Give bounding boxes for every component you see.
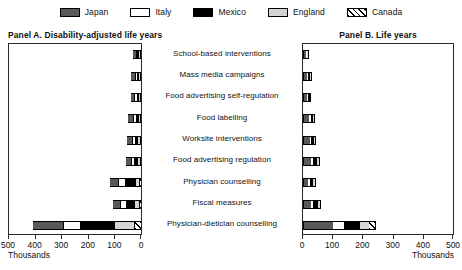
legend-label-canada: Canada bbox=[372, 8, 402, 17]
bar-row bbox=[33, 221, 141, 230]
bar-row bbox=[133, 50, 141, 59]
bar-segment-mexico bbox=[80, 221, 114, 230]
bar-segment-japan bbox=[303, 221, 333, 230]
chart-legend: JapanItalyMexicoEnglandCanada bbox=[0, 4, 462, 20]
bar-segment-canada bbox=[140, 50, 141, 59]
legend-swatch-canada-icon bbox=[347, 8, 367, 17]
bar-segment-japan bbox=[33, 221, 65, 230]
panel-b-bars bbox=[303, 44, 453, 234]
chart-figure: JapanItalyMexicoEnglandCanada Panel A. D… bbox=[0, 0, 462, 270]
category-label: Physician counselling bbox=[146, 177, 298, 186]
axis-tick bbox=[332, 235, 333, 239]
axis-tick bbox=[140, 235, 141, 239]
category-label: Food advertising self-regulation bbox=[146, 91, 298, 100]
bar-segment-japan bbox=[303, 157, 311, 166]
bar-segment-canada bbox=[308, 50, 309, 59]
bar-row bbox=[113, 200, 141, 209]
axis-tick-label: 500 bbox=[1, 240, 15, 250]
category-label: Food advertising regulation bbox=[146, 155, 298, 164]
axis-tick bbox=[302, 235, 303, 239]
bar-row bbox=[131, 72, 141, 81]
axis-tick-label: 500 bbox=[446, 240, 460, 250]
panel-b-title: Panel B. Life years bbox=[300, 30, 456, 40]
panel-b-plot-area bbox=[302, 43, 454, 235]
bar-segment-canada bbox=[139, 178, 141, 187]
bar-segment-england bbox=[115, 221, 135, 230]
category-label: School-based interventions bbox=[146, 49, 298, 58]
legend-item-england[interactable]: England bbox=[268, 8, 325, 17]
bar-row bbox=[303, 93, 311, 102]
bar-segment-japan bbox=[126, 157, 133, 166]
bar-row bbox=[303, 50, 309, 59]
bar-segment-canada bbox=[134, 221, 141, 230]
bar-row bbox=[303, 72, 312, 81]
bar-row bbox=[303, 200, 321, 209]
axis-tick-label: 300 bbox=[386, 240, 400, 250]
legend-item-canada[interactable]: Canada bbox=[347, 8, 402, 17]
bar-segment-canada bbox=[369, 221, 376, 230]
axis-tick-label: 400 bbox=[28, 240, 42, 250]
legend-swatch-japan-icon bbox=[60, 8, 80, 17]
legend-swatch-england-icon bbox=[268, 8, 288, 17]
panel-a-x-axis: Thousands 5004003002001000 bbox=[8, 235, 142, 261]
panel-a-title: Panel A. Disability-adjusted life years bbox=[8, 30, 162, 40]
axis-tick bbox=[114, 235, 115, 239]
bar-row bbox=[127, 136, 141, 145]
bar-segment-canada bbox=[140, 93, 141, 102]
bar-segment-mexico bbox=[126, 200, 136, 209]
axis-tick bbox=[61, 235, 62, 239]
legend-label-italy: Italy bbox=[155, 8, 171, 17]
axis-tick-label: 400 bbox=[416, 240, 430, 250]
legend-swatch-italy-icon bbox=[130, 8, 150, 17]
axis-tick-label: 100 bbox=[325, 240, 339, 250]
legend-swatch-mexico-icon bbox=[193, 8, 213, 17]
axis-tick bbox=[393, 235, 394, 239]
bar-segment-canada bbox=[314, 114, 315, 123]
bar-segment-canada bbox=[320, 200, 321, 209]
bar-segment-canada bbox=[140, 157, 141, 166]
axis-tick bbox=[35, 235, 36, 239]
bar-row bbox=[126, 157, 142, 166]
bar-segment-mexico bbox=[125, 178, 137, 187]
legend-label-england: England bbox=[293, 8, 325, 17]
bar-segment-japan bbox=[113, 200, 121, 209]
bar-row bbox=[303, 114, 315, 123]
axis-tick bbox=[423, 235, 424, 239]
bar-row bbox=[131, 93, 141, 102]
bar-segment-mexico bbox=[344, 221, 360, 230]
legend-label-japan: Japan bbox=[85, 8, 109, 17]
axis-tick-label: 300 bbox=[54, 240, 68, 250]
panel-a-axis-unit: Thousands bbox=[8, 250, 50, 260]
axis-tick-label: 200 bbox=[81, 240, 95, 250]
legend-label-mexico: Mexico bbox=[218, 8, 246, 17]
bar-segment-japan bbox=[303, 136, 310, 145]
bar-segment-canada bbox=[319, 157, 320, 166]
bar-segment-italy bbox=[333, 221, 344, 230]
axis-tick-label: 200 bbox=[355, 240, 369, 250]
axis-tick bbox=[88, 235, 89, 239]
legend-item-japan[interactable]: Japan bbox=[60, 8, 109, 17]
axis-tick bbox=[362, 235, 363, 239]
bar-segment-canada bbox=[315, 136, 316, 145]
bar-segment-canada bbox=[140, 136, 141, 145]
bar-segment-canada bbox=[311, 72, 312, 81]
bar-segment-england bbox=[360, 221, 369, 230]
category-label: Mass media campaigns bbox=[146, 70, 298, 79]
legend-item-italy[interactable]: Italy bbox=[130, 8, 171, 17]
bar-segment-canada bbox=[310, 93, 311, 102]
panel-b-x-axis: Thousands 0100200300400500 bbox=[302, 235, 454, 261]
panel-a-bars bbox=[9, 44, 141, 234]
bar-row bbox=[110, 178, 141, 187]
legend-item-mexico[interactable]: Mexico bbox=[193, 8, 246, 17]
axis-tick-label: 0 bbox=[139, 240, 144, 250]
bar-row bbox=[303, 136, 316, 145]
category-label: Physician-dietician counselling bbox=[146, 219, 298, 228]
category-label: Worksite interventions bbox=[146, 134, 298, 143]
axis-tick-label: 0 bbox=[300, 240, 305, 250]
bar-row bbox=[303, 178, 316, 187]
bar-segment-canada bbox=[139, 200, 141, 209]
panel-b-axis-unit: Thousands bbox=[412, 250, 454, 260]
axis-tick bbox=[452, 235, 453, 239]
bar-segment-canada bbox=[140, 72, 141, 81]
category-label-column: School-based interventionsMass media cam… bbox=[146, 43, 298, 235]
